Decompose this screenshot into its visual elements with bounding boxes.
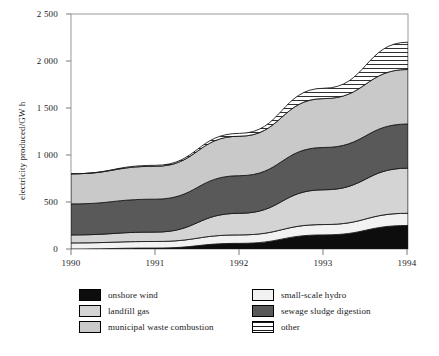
x-axis-ticks: [71, 249, 407, 255]
x-tick-label-1992: 1992: [216, 258, 262, 268]
legend-item-landfill-gas: landfill gas: [79, 305, 234, 317]
small-scale-hydro-swatch: [252, 289, 274, 301]
legend-label-sewage-sludge-digestion: sewage sludge digestion: [281, 305, 371, 317]
legend-label-onshore-wind: onshore wind: [108, 289, 158, 301]
chart-canvas: [0, 0, 439, 272]
legend-label-landfill-gas: landfill gas: [108, 305, 149, 317]
legend-item-sewage-sludge-digestion: sewage sludge digestion: [252, 305, 391, 317]
other-swatch: [252, 321, 274, 333]
y-tick-label-1500: 1 500: [18, 103, 58, 113]
x-tick-label-1994: 1994: [384, 258, 430, 268]
municipal-waste-combustion-swatch: [79, 321, 101, 333]
y-axis-ticks: [66, 14, 71, 249]
stacked-area-chart-figure: electricity produced/GW h 2 500 2 000 1 …: [0, 0, 439, 356]
x-tick-label-1991: 1991: [132, 258, 178, 268]
legend-item-municipal-waste-combustion: municipal waste combustion: [79, 321, 234, 333]
legend-label-municipal-waste-combustion: municipal waste combustion: [108, 321, 214, 333]
y-tick-label-1000: 1 000: [18, 150, 58, 160]
legend-item-small-scale-hydro: small-scale hydro: [252, 289, 391, 301]
legend-item-other: other: [252, 321, 391, 333]
y-tick-label-2500: 2 500: [18, 9, 58, 19]
onshore-wind-swatch: [79, 289, 101, 301]
y-tick-label-2000: 2 000: [18, 56, 58, 66]
plot-area: electricity produced/GW h 2 500 2 000 1 …: [0, 0, 439, 272]
y-tick-label-500: 500: [18, 197, 58, 207]
landfill-gas-swatch: [79, 305, 101, 317]
x-tick-label-1993: 1993: [300, 258, 346, 268]
legend-item-onshore-wind: onshore wind: [79, 289, 234, 301]
legend-label-small-scale-hydro: small-scale hydro: [281, 289, 346, 301]
y-tick-label-0: 0: [18, 244, 58, 254]
sewage-sludge-digestion-swatch: [252, 305, 274, 317]
chart-legend: onshore wind small-scale hydro landfill …: [79, 289, 391, 333]
legend-label-other: other: [281, 321, 300, 333]
x-tick-label-1990: 1990: [48, 258, 94, 268]
